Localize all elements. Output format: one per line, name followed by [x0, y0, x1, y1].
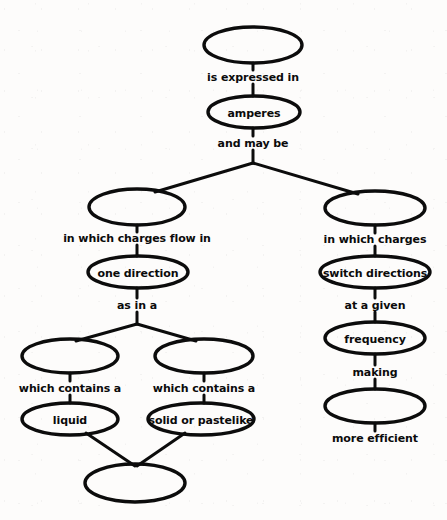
nodes-group [22, 27, 430, 502]
concept-map-svg [0, 0, 447, 520]
node-ellipse-n2[interactable] [208, 96, 300, 128]
edge-connector [155, 163, 253, 192]
node-ellipse-blank-n13[interactable] [85, 464, 185, 502]
node-ellipse-n5[interactable] [88, 256, 188, 288]
edge-connector [86, 433, 135, 466]
node-ellipse-blank-n8[interactable] [325, 389, 425, 423]
node-ellipse-blank-n4[interactable] [325, 191, 425, 225]
node-ellipse-n6[interactable] [320, 256, 430, 288]
node-ellipse-blank-n10[interactable] [155, 339, 253, 373]
node-ellipse-blank-n1[interactable] [204, 27, 302, 63]
node-ellipse-n7[interactable] [325, 322, 425, 354]
node-ellipse-n11[interactable] [22, 403, 118, 435]
edge-connector [137, 433, 185, 466]
node-ellipse-n12[interactable] [148, 403, 254, 435]
edge-connector [253, 163, 358, 194]
node-ellipse-blank-n3[interactable] [89, 189, 185, 225]
node-ellipse-blank-n9[interactable] [22, 339, 118, 373]
concept-map-canvas: amperesone directionswitch directionsfre… [0, 0, 447, 520]
